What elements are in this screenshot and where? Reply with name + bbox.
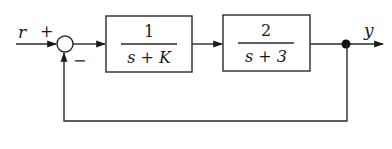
transfer-block-2: 2 s + 3 xyxy=(223,15,310,71)
transfer-block-1: 1 s + K xyxy=(106,16,192,72)
block-diagram: r + − 1 s + K 2 s + 3 y xyxy=(0,0,392,149)
block1-numerator: 1 xyxy=(144,22,154,41)
block2-denominator: s + 3 xyxy=(245,47,287,66)
block2-numerator: 2 xyxy=(261,21,271,40)
summing-junction xyxy=(57,36,73,52)
output-label: y xyxy=(363,20,374,40)
block1-denominator: s + K xyxy=(127,48,172,67)
minus-sign: − xyxy=(73,51,86,70)
input-label: r xyxy=(18,22,27,42)
plus-sign: + xyxy=(40,22,53,41)
pickoff-point xyxy=(342,40,351,49)
